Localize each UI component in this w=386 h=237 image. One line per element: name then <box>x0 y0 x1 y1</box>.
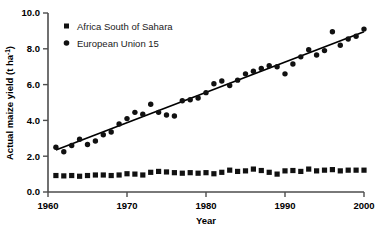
data-point <box>251 166 256 171</box>
data-point <box>235 77 240 82</box>
data-point <box>306 166 311 171</box>
y-axis-title-main: Actual maize yield (t ha <box>4 54 15 160</box>
data-point <box>117 172 122 177</box>
x-tick-label-2: 1980 <box>195 200 216 211</box>
data-point <box>140 172 145 177</box>
legend-marker-square-icon <box>64 24 69 29</box>
data-point <box>116 121 121 126</box>
data-point <box>282 168 287 173</box>
data-point <box>180 98 185 103</box>
data-point <box>259 168 264 173</box>
data-point <box>132 110 137 115</box>
data-point <box>282 71 287 76</box>
data-point <box>243 168 248 173</box>
data-point <box>77 174 82 179</box>
x-tick-label-3: 1990 <box>274 200 295 211</box>
trendline-eu15 <box>56 32 364 150</box>
data-point <box>306 47 311 52</box>
data-point <box>275 172 280 177</box>
data-point <box>227 168 232 173</box>
data-point <box>361 168 366 173</box>
data-point <box>251 68 256 73</box>
chart-figure: 0.0 2.0 4.0 6.0 8.0 10.0 1960 1970 1980 … <box>0 0 386 237</box>
y-tick-label-4: 8.0 <box>27 43 40 54</box>
data-point <box>172 113 177 118</box>
data-point <box>322 48 327 53</box>
data-point <box>156 169 161 174</box>
data-point <box>85 142 90 147</box>
data-point <box>93 172 98 177</box>
data-point <box>298 54 303 59</box>
data-point <box>164 112 169 117</box>
y-tick-label-0: 0.0 <box>27 186 40 197</box>
legend-label-eu15: European Union 15 <box>77 38 159 49</box>
x-axis-tick-labels: 1960 1970 1980 1990 2000 <box>37 200 374 211</box>
data-point <box>330 29 335 34</box>
x-tick-label-1: 1970 <box>116 200 137 211</box>
svg-text:Actual maize yield (t ha-1): Actual maize yield (t ha-1) <box>4 46 16 160</box>
data-point <box>219 78 224 83</box>
series-points-africa <box>53 166 366 178</box>
data-point <box>227 83 232 88</box>
data-point <box>338 168 343 173</box>
data-point <box>235 169 240 174</box>
data-point <box>259 66 264 71</box>
data-point <box>85 173 90 178</box>
data-point <box>101 132 106 137</box>
data-point <box>196 171 201 176</box>
x-tick-label-0: 1960 <box>37 200 58 211</box>
y-tick-label-2: 4.0 <box>27 115 40 126</box>
data-point <box>211 171 216 176</box>
data-point <box>53 145 58 150</box>
data-point <box>203 90 208 95</box>
data-point <box>188 97 193 102</box>
maize-yield-scatter-chart: 0.0 2.0 4.0 6.0 8.0 10.0 1960 1970 1980 … <box>0 0 386 237</box>
data-point <box>290 61 295 66</box>
data-point <box>195 95 200 100</box>
data-point <box>148 170 153 175</box>
y-tick-label-3: 6.0 <box>27 79 40 90</box>
data-point <box>267 63 272 68</box>
data-point <box>338 43 343 48</box>
data-point <box>61 149 66 154</box>
data-point <box>140 111 145 116</box>
data-point <box>290 168 295 173</box>
y-axis-tick-labels: 0.0 2.0 4.0 6.0 8.0 10.0 <box>22 7 41 197</box>
data-point <box>274 64 279 69</box>
data-point <box>361 26 366 31</box>
data-point <box>314 52 319 57</box>
data-point <box>69 143 74 148</box>
data-point <box>330 167 335 172</box>
data-point <box>211 81 216 86</box>
data-point <box>346 168 351 173</box>
data-point <box>69 173 74 178</box>
data-point <box>53 173 58 178</box>
data-point <box>322 168 327 173</box>
data-point <box>109 173 114 178</box>
data-point <box>124 116 129 121</box>
data-point <box>93 138 98 143</box>
data-point <box>203 170 208 175</box>
data-point <box>354 168 359 173</box>
data-point <box>101 172 106 177</box>
data-point <box>164 169 169 174</box>
y-axis-title-tail: ) <box>4 46 15 49</box>
data-point <box>180 171 185 176</box>
data-point <box>219 170 224 175</box>
y-tick-label-5: 10.0 <box>22 7 41 18</box>
data-point <box>77 136 82 141</box>
data-point <box>346 36 351 41</box>
data-point <box>156 110 161 115</box>
data-point <box>314 168 319 173</box>
data-point <box>124 171 129 176</box>
trendline-segment <box>56 32 364 150</box>
data-point <box>188 170 193 175</box>
data-point <box>132 172 137 177</box>
legend-marker-circle-icon <box>64 40 70 46</box>
data-point <box>61 173 66 178</box>
data-point <box>148 102 153 107</box>
data-point <box>267 170 272 175</box>
data-point <box>243 71 248 76</box>
x-tick-label-4: 2000 <box>353 200 374 211</box>
data-point <box>172 170 177 175</box>
